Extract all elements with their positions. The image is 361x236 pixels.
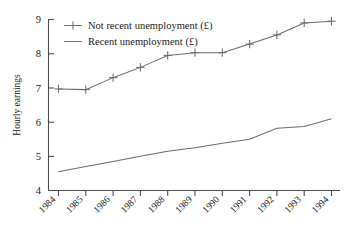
x-tick-label-1994: 1994 (310, 194, 331, 215)
y-tick-label-8: 8 (36, 48, 41, 59)
x-tick-label-1987: 1987 (119, 194, 140, 215)
x-tick-label-1984: 1984 (37, 194, 58, 215)
series-recent-unemployment (59, 119, 332, 172)
x-tick-label-1993: 1993 (283, 194, 304, 215)
x-tick-label-1992: 1992 (255, 194, 276, 215)
legend-label-recent-unemployment: Recent unemployment (£) (88, 36, 198, 48)
y-tick-label-7: 7 (36, 83, 41, 94)
y-tick-label-6: 6 (36, 117, 41, 128)
y-tick-label-5: 5 (36, 151, 41, 162)
y-tick-marks (49, 20, 55, 191)
y-tick-label-4: 4 (36, 185, 42, 196)
chart-figure: 9 8 7 6 5 4 Hourly earnings 1984 1985 (0, 0, 361, 236)
x-tick-label-1986: 1986 (92, 194, 113, 215)
y-tick-label-9: 9 (36, 14, 41, 25)
y-axis-title: Hourly earnings (12, 74, 22, 136)
line-chart: 9 8 7 6 5 4 Hourly earnings 1984 1985 (0, 0, 361, 236)
x-tick-label-1985: 1985 (64, 194, 85, 215)
x-tick-label-1989: 1989 (173, 194, 194, 215)
y-tick-labels: 9 8 7 6 5 4 (36, 14, 42, 196)
x-tick-labels: 1984 1985 1986 1987 1988 1989 1990 1991 … (37, 194, 331, 215)
x-tick-label-1988: 1988 (146, 194, 167, 215)
x-tick-marks (59, 191, 332, 197)
x-tick-label-1991: 1991 (228, 194, 249, 215)
legend-label-not-recent-unemployment: Not recent unemployment (£) (88, 20, 213, 32)
chart-legend: Not recent unemployment (£) Recent unemp… (64, 20, 213, 48)
series-line-recent-unemployment (59, 119, 332, 172)
x-tick-label-1990: 1990 (201, 194, 222, 215)
